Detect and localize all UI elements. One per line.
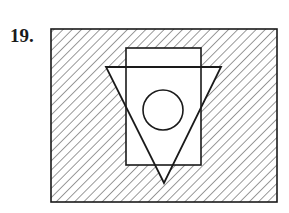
venn-figure	[0, 0, 289, 213]
